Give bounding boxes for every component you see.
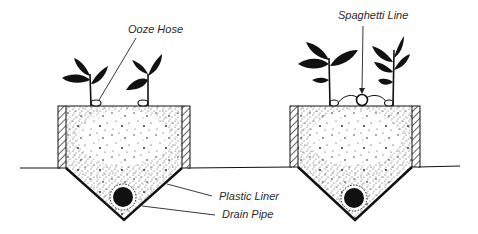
drain-pipe-leader bbox=[142, 206, 215, 215]
plastic-liner-leader bbox=[167, 184, 212, 196]
drain-pipe bbox=[110, 184, 136, 210]
drain-pipe-label: Drain Pipe bbox=[222, 208, 273, 220]
plastic-liner-label: Plastic Liner bbox=[219, 190, 279, 202]
ooze-hose bbox=[138, 100, 148, 106]
ooze-hose bbox=[91, 100, 101, 106]
drain-pipe bbox=[341, 185, 367, 211]
right-board bbox=[412, 106, 420, 167]
right-raised-bed bbox=[290, 36, 420, 220]
spaghetti-line-label: Spaghetti Line bbox=[338, 9, 408, 21]
spaghetti-line-leader bbox=[362, 26, 363, 92]
plant-icon bbox=[298, 42, 358, 106]
left-raised-bed bbox=[58, 54, 190, 220]
left-board bbox=[58, 106, 66, 168]
plant-icon bbox=[62, 58, 108, 106]
right-board bbox=[182, 106, 190, 168]
left-board bbox=[290, 106, 298, 167]
spaghetti-line bbox=[330, 95, 394, 107]
plant-icon bbox=[126, 54, 162, 106]
ooze-hose-label: Ooze Hose bbox=[128, 23, 183, 35]
arrowhead-icon bbox=[359, 88, 365, 94]
